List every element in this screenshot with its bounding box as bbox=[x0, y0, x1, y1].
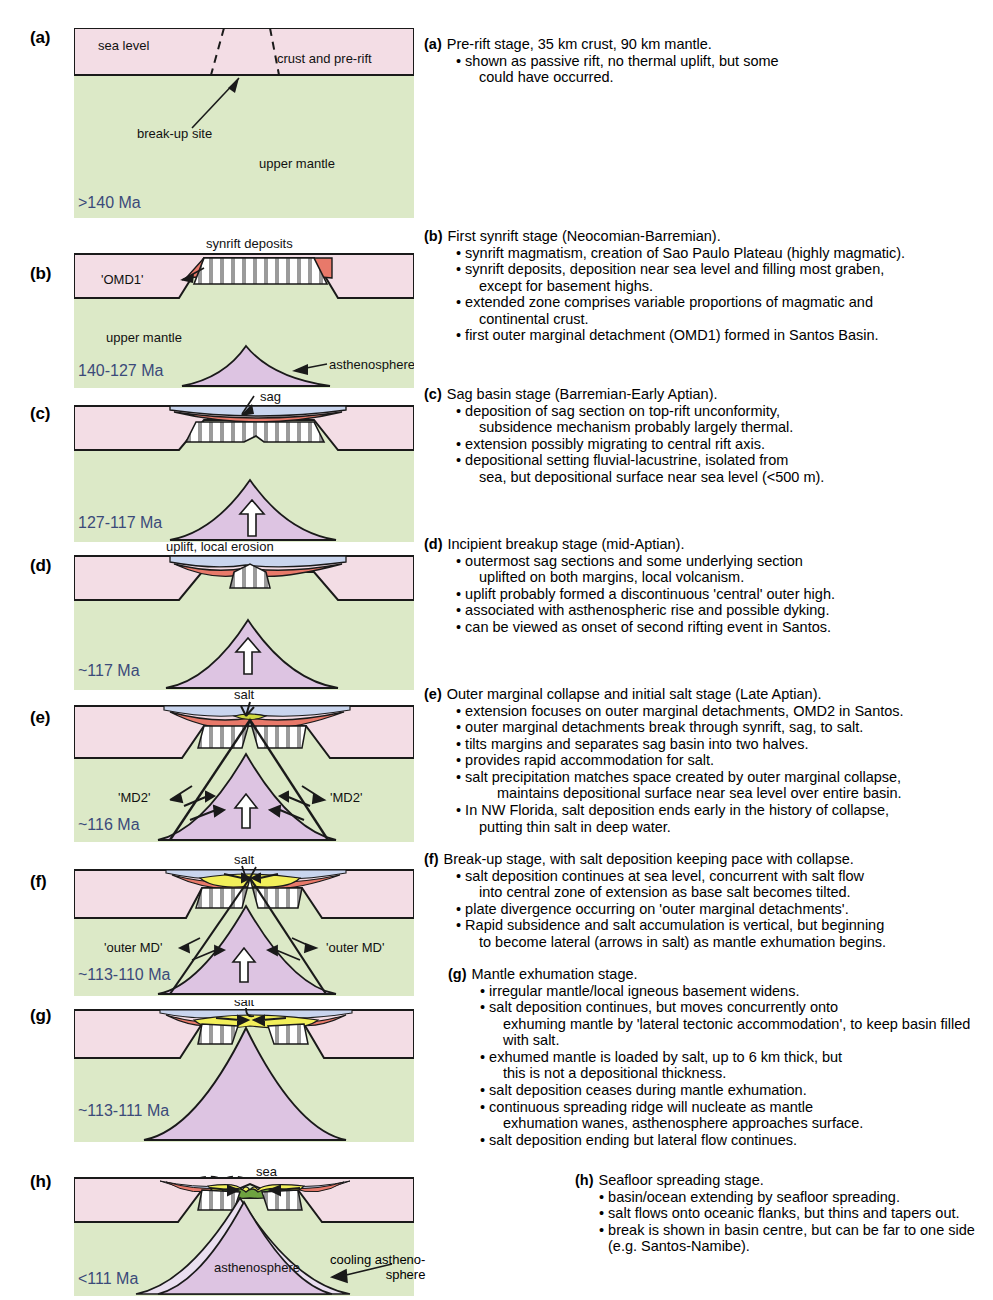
bullet-cont: continental crust. bbox=[465, 311, 989, 328]
list-item: extension possibly migrating to central … bbox=[456, 436, 989, 453]
bullet-cont: exhumation wanes, asthenosphere approach… bbox=[489, 1115, 993, 1132]
bullet-cont: putting thin salt in deep water. bbox=[465, 819, 989, 836]
list-item: depositional setting fluvial-lacustrine,… bbox=[456, 452, 989, 485]
caption-d-tag: (d) bbox=[424, 536, 448, 552]
age-label-f: ~113-110 Ma bbox=[78, 966, 170, 983]
panel-a: (a) sea level crust and pre-rift break-u… bbox=[30, 28, 420, 218]
panel-a-label: (a) bbox=[30, 28, 50, 48]
synrift-deposits-label: synrift deposits bbox=[206, 236, 293, 251]
panel-d: (d) uplift, local erosion ~117 Ma bbox=[30, 542, 420, 690]
list-item: can be viewed as onset of second rifting… bbox=[456, 619, 989, 636]
caption-e-tag: (e) bbox=[424, 686, 447, 702]
list-item: salt deposition ceases during mantle exh… bbox=[480, 1082, 993, 1099]
upper-mantle-label-b: upper mantle bbox=[106, 330, 182, 345]
figure-root: (a) sea level crust and pre-rift break-u… bbox=[0, 0, 993, 1300]
sag-blue-d bbox=[170, 556, 346, 567]
asthenosphere-label-h: asthenosphere bbox=[214, 1260, 300, 1275]
bullet-text: uplift probably formed a discontinuous '… bbox=[465, 586, 835, 602]
age-label-h: <111 Ma bbox=[78, 1270, 138, 1287]
bullet-cont: except for basement highs. bbox=[465, 278, 989, 295]
bullet-text: salt precipitation matches space created… bbox=[465, 769, 901, 785]
synrift-hatched-left-g bbox=[198, 1024, 238, 1044]
bullet-text: salt deposition continues at sea level, … bbox=[465, 868, 864, 884]
list-item: plate divergence occurring on 'outer mar… bbox=[456, 901, 989, 918]
age-label-d: ~117 Ma bbox=[78, 662, 140, 679]
omd1-label: 'OMD1' bbox=[101, 272, 144, 287]
caption-e-title: Outer marginal collapse and initial salt… bbox=[447, 686, 822, 703]
caption-d-bullets: outermost sag sections and some underlyi… bbox=[424, 553, 989, 636]
panel-e-label: (e) bbox=[30, 708, 50, 728]
list-item: first outer marginal detachment (OMD1) f… bbox=[456, 327, 989, 344]
panel-c-canvas: sag 127-117 Ma bbox=[74, 392, 414, 542]
bullet-text: In NW Florida, salt deposition ends earl… bbox=[465, 802, 889, 818]
caption-a-bullets: shown as passive rift, no thermal uplift… bbox=[424, 53, 989, 86]
caption-g-bullets: irregular mantle/local igneous basement … bbox=[448, 983, 993, 1149]
caption-h-bullets: basin/ocean extending by seafloor spread… bbox=[575, 1189, 993, 1255]
bullet-text: salt deposition continues, but moves con… bbox=[489, 999, 838, 1015]
sea-level-label: sea level bbox=[98, 38, 149, 53]
md2-right-label: 'MD2' bbox=[330, 790, 362, 805]
bullet-text: Rapid subsidence and salt accumulation i… bbox=[465, 917, 884, 933]
list-item: Rapid subsidence and salt accumulation i… bbox=[456, 917, 989, 950]
caption-h-tag: (h) bbox=[575, 1172, 599, 1188]
outer-md-right-label: 'outer MD' bbox=[326, 940, 384, 955]
panel-b-label: (b) bbox=[30, 264, 51, 284]
bullet-text: synrift magmatism, creation of Sao Paulo… bbox=[465, 245, 905, 261]
bullet-text: outermost sag sections and some underlyi… bbox=[465, 553, 803, 569]
age-label-e: ~116 Ma bbox=[78, 816, 140, 833]
caption-h-title: Seafloor spreading stage. bbox=[599, 1172, 764, 1189]
bullet-cont: to become lateral (arrows in salt) as ma… bbox=[465, 934, 989, 951]
bullet-text: irregular mantle/local igneous basement … bbox=[489, 983, 799, 999]
list-item: basin/ocean extending by seafloor spread… bbox=[599, 1189, 993, 1206]
caption-f-title: Break-up stage, with salt deposition kee… bbox=[444, 851, 854, 868]
caption-f-tag: (f) bbox=[424, 851, 444, 867]
bullet-cont: maintains depositional surface near sea … bbox=[465, 785, 989, 802]
caption-g: (g) Mantle exhumation stage. irregular m… bbox=[448, 966, 993, 1148]
age-label-c: 127-117 Ma bbox=[78, 514, 162, 531]
bullet-cont: exhuming mantle by 'lateral tectonic acc… bbox=[489, 1016, 993, 1049]
caption-a-tag: (a) bbox=[424, 36, 447, 52]
list-item: salt deposition continues, but moves con… bbox=[480, 999, 993, 1049]
list-item: uplift probably formed a discontinuous '… bbox=[456, 586, 989, 603]
bullet-text: continuous spreading ridge will nucleate… bbox=[489, 1099, 813, 1115]
panel-g: (g) salt ~1 bbox=[30, 1000, 420, 1142]
list-item: associated with asthenospheric rise and … bbox=[456, 602, 989, 619]
caption-a-title: Pre-rift stage, 35 km crust, 90 km mantl… bbox=[447, 36, 712, 53]
caption-b: (b) First synrift stage (Neocomian-Barre… bbox=[424, 228, 989, 344]
bullet-cont: could have occurred. bbox=[465, 69, 989, 86]
bullet-text: salt deposition ending but lateral flow … bbox=[489, 1132, 797, 1148]
bullet-text: exhumed mantle is loaded by salt, up to … bbox=[489, 1049, 842, 1065]
caption-e-bullets: extension focuses on outer marginal deta… bbox=[424, 703, 989, 836]
bullet-text: salt deposition ceases during mantle exh… bbox=[489, 1082, 807, 1098]
list-item: In NW Florida, salt deposition ends earl… bbox=[456, 802, 989, 835]
sea-label-h: sea bbox=[256, 1168, 278, 1179]
bullet-text: plate divergence occurring on 'outer mar… bbox=[465, 901, 849, 917]
caption-c-tag: (c) bbox=[424, 386, 447, 402]
asthenosphere-label-b: asthenosphere bbox=[329, 357, 414, 372]
panel-f: (f) bbox=[30, 856, 420, 996]
caption-f: (f) Break-up stage, with salt deposition… bbox=[424, 851, 989, 950]
list-item: continuous spreading ridge will nucleate… bbox=[480, 1099, 993, 1132]
salt-label-e: salt bbox=[234, 690, 255, 702]
list-item: synrift deposits, deposition near sea le… bbox=[456, 261, 989, 294]
bullet-text: outer marginal detachments break through… bbox=[465, 719, 863, 735]
panel-c-label: (c) bbox=[30, 404, 50, 424]
caption-c: (c) Sag basin stage (Barremian-Early Apt… bbox=[424, 386, 989, 485]
list-item: break is shown in basin centre, but can … bbox=[599, 1222, 993, 1255]
crust-prerift-label: crust and pre-rift bbox=[277, 51, 372, 66]
panel-e: (e) bbox=[30, 690, 420, 842]
age-label-a: >140 Ma bbox=[78, 194, 141, 211]
list-item: salt deposition ending but lateral flow … bbox=[480, 1132, 993, 1149]
list-item: exhumed mantle is loaded by salt, up to … bbox=[480, 1049, 993, 1082]
bullet-cont: this is not a depositional thickness. bbox=[489, 1065, 993, 1082]
list-item: salt precipitation matches space created… bbox=[456, 769, 989, 802]
age-label-g: ~113-111 Ma bbox=[78, 1102, 169, 1119]
bullet-text: break is shown in basin centre, but can … bbox=[608, 1222, 975, 1255]
uplift-local-erosion-label: uplift, local erosion bbox=[166, 542, 274, 554]
caption-g-tag: (g) bbox=[448, 966, 472, 982]
upper-mantle-label-a: upper mantle bbox=[259, 156, 335, 171]
panel-b-canvas: synrift deposits 'OMD1' upper mantle ast… bbox=[74, 236, 414, 388]
breakup-site-label: break-up site bbox=[137, 126, 212, 141]
sag-label: sag bbox=[260, 392, 281, 404]
bullet-text: depositional setting fluvial-lacustrine,… bbox=[465, 452, 788, 468]
